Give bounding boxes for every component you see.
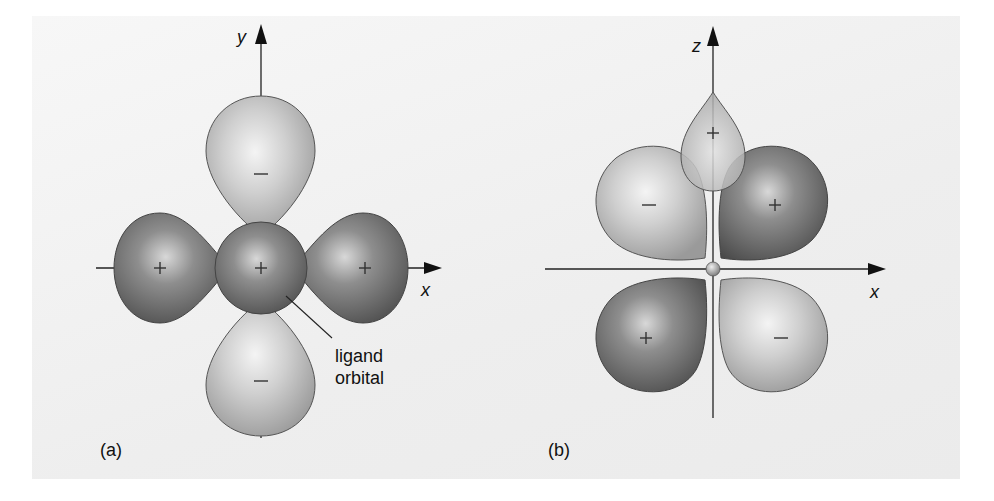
figure-a: y x ligand orbital (a) — [96, 24, 442, 460]
x-axis-label: x — [420, 280, 431, 300]
metal-atom — [706, 262, 720, 276]
z-axis-label: z — [691, 36, 701, 56]
orbital-diagrams: y x ligand orbital (a) z x (b) — [0, 0, 994, 501]
lobe-lower-left-positive — [596, 278, 707, 392]
y-axis-arrow-icon — [255, 24, 267, 44]
x-axis-arrow-icon — [868, 263, 886, 275]
figure-b: z x (b) — [545, 26, 886, 460]
figure-b-label: (b) — [548, 440, 570, 460]
z-axis-arrow-icon — [707, 26, 719, 46]
x-axis-arrow-icon — [424, 262, 442, 274]
figure-a-label: (a) — [100, 440, 122, 460]
ligand-orbital-label-line2: orbital — [335, 368, 384, 388]
y-axis-label: y — [235, 27, 247, 47]
lobe-right-positive — [293, 213, 408, 323]
lobe-bottom-negative — [206, 300, 315, 436]
lobe-lower-right-negative — [719, 278, 828, 392]
lobe-left-positive — [114, 213, 229, 323]
x-axis-label: x — [869, 282, 880, 302]
lobe-top-teardrop-positive — [681, 92, 745, 191]
lobe-top-negative — [206, 96, 315, 236]
ligand-orbital-label-line1: ligand — [335, 346, 383, 366]
